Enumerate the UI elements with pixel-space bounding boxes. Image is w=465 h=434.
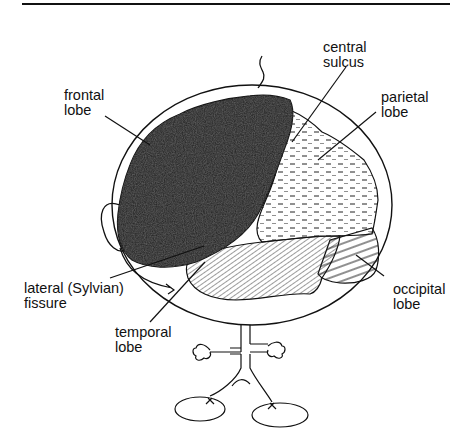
pointer-temporal-lobe	[150, 262, 205, 322]
brain-diagram	[0, 0, 465, 434]
label-central-sulcus: central sulcus	[323, 40, 367, 70]
label-occipital-lobe: occipital lobe	[393, 282, 445, 312]
cartoon-body	[175, 325, 308, 427]
hair-squiggle	[258, 56, 264, 88]
label-frontal-lobe: frontal lobe	[64, 88, 104, 118]
pointer-frontal-lobe	[105, 116, 150, 145]
label-temporal-lobe: temporal lobe	[115, 325, 171, 355]
label-parietal-lobe: parietal lobe	[381, 90, 429, 120]
label-lateral-fissure: lateral (Sylvian) fissure	[24, 281, 124, 311]
